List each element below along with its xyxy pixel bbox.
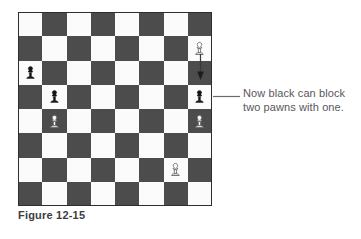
square-r3c8[interactable]	[188, 61, 212, 85]
white-pawn-icon	[45, 112, 64, 131]
square-r3c4[interactable]	[91, 61, 115, 85]
square-r5c2[interactable]	[42, 109, 66, 133]
square-r2c3[interactable]	[67, 36, 91, 60]
square-r5c1[interactable]	[18, 109, 42, 133]
square-r2c7[interactable]	[164, 36, 188, 60]
square-r2c8[interactable]	[188, 36, 212, 60]
square-r6c2[interactable]	[42, 133, 66, 157]
chessboard-grid	[18, 12, 212, 206]
square-r7c1[interactable]	[18, 158, 42, 182]
white-pawn-icon	[166, 160, 185, 179]
square-r6c3[interactable]	[67, 133, 91, 157]
black-pawn-icon	[45, 87, 64, 106]
square-r8c4[interactable]	[91, 182, 115, 206]
square-r7c2[interactable]	[42, 158, 66, 182]
black-pawn-r4c8[interactable]	[190, 87, 209, 106]
square-r3c3[interactable]	[67, 61, 91, 85]
square-r2c5[interactable]	[115, 36, 139, 60]
square-r7c3[interactable]	[67, 158, 91, 182]
square-r5c3[interactable]	[67, 109, 91, 133]
square-r6c6[interactable]	[139, 133, 163, 157]
square-r3c5[interactable]	[115, 61, 139, 85]
black-pawn-r4c2[interactable]	[45, 87, 64, 106]
square-r1c5[interactable]	[115, 12, 139, 36]
square-r1c2[interactable]	[42, 12, 66, 36]
square-r4c8[interactable]	[188, 85, 212, 109]
square-r5c5[interactable]	[115, 109, 139, 133]
square-r3c2[interactable]	[42, 61, 66, 85]
square-r1c8[interactable]	[188, 12, 212, 36]
square-r1c1[interactable]	[18, 12, 42, 36]
square-r1c7[interactable]	[164, 12, 188, 36]
chessboard	[18, 12, 212, 206]
black-pawn-icon	[190, 87, 209, 106]
square-r3c6[interactable]	[139, 61, 163, 85]
square-r7c5[interactable]	[115, 158, 139, 182]
square-r4c2[interactable]	[42, 85, 66, 109]
figure-caption: Figure 12-15	[18, 209, 85, 221]
square-r6c8[interactable]	[188, 133, 212, 157]
square-r2c2[interactable]	[42, 36, 66, 60]
square-r8c1[interactable]	[18, 182, 42, 206]
square-r7c6[interactable]	[139, 158, 163, 182]
square-r1c4[interactable]	[91, 12, 115, 36]
callout-line-1: Now black can block	[243, 86, 361, 100]
square-r4c4[interactable]	[91, 85, 115, 109]
square-r4c7[interactable]	[164, 85, 188, 109]
square-r5c7[interactable]	[164, 109, 188, 133]
square-r3c7[interactable]	[164, 61, 188, 85]
square-r6c5[interactable]	[115, 133, 139, 157]
square-r8c3[interactable]	[67, 182, 91, 206]
callout-annotation: Now black can block two pawns with one.	[243, 86, 361, 114]
square-r5c4[interactable]	[91, 109, 115, 133]
white-pawn-r7c7[interactable]	[166, 160, 185, 179]
square-r4c1[interactable]	[18, 85, 42, 109]
white-pawn-r5c2[interactable]	[45, 112, 64, 131]
square-r6c4[interactable]	[91, 133, 115, 157]
square-r8c2[interactable]	[42, 182, 66, 206]
square-r7c4[interactable]	[91, 158, 115, 182]
square-r8c5[interactable]	[115, 182, 139, 206]
square-r4c3[interactable]	[67, 85, 91, 109]
square-r5c6[interactable]	[139, 109, 163, 133]
square-r8c6[interactable]	[139, 182, 163, 206]
black-pawn-r3c1[interactable]	[21, 63, 40, 82]
chess-figure: Now black can block two pawns with one. …	[0, 0, 361, 239]
square-r1c3[interactable]	[67, 12, 91, 36]
square-r8c8[interactable]	[188, 182, 212, 206]
square-r7c8[interactable]	[188, 158, 212, 182]
square-r3c1[interactable]	[18, 61, 42, 85]
white-pawn-r5c8[interactable]	[190, 112, 209, 131]
square-r5c8[interactable]	[188, 109, 212, 133]
square-r8c7[interactable]	[164, 182, 188, 206]
black-pawn-icon	[21, 63, 40, 82]
square-r6c1[interactable]	[18, 133, 42, 157]
square-r7c7[interactable]	[164, 158, 188, 182]
square-r4c5[interactable]	[115, 85, 139, 109]
white-pawn-icon	[190, 112, 209, 131]
callout-line-2: two pawns with one.	[243, 100, 361, 114]
square-r1c6[interactable]	[139, 12, 163, 36]
square-r6c7[interactable]	[164, 133, 188, 157]
square-r2c4[interactable]	[91, 36, 115, 60]
square-r2c1[interactable]	[18, 36, 42, 60]
square-r2c6[interactable]	[139, 36, 163, 60]
white-pawn-icon	[190, 39, 209, 58]
square-r4c6[interactable]	[139, 85, 163, 109]
white-pawn-r2c8[interactable]	[190, 39, 209, 58]
